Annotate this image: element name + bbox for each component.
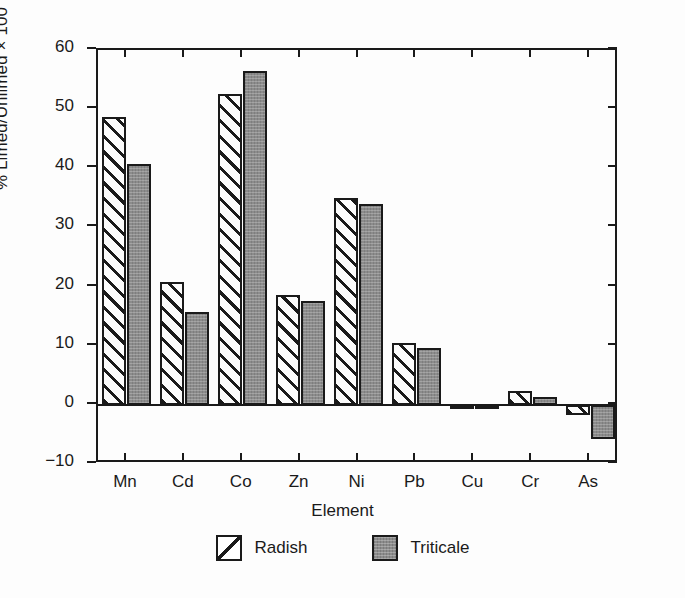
- bar-triticale-pb: [417, 348, 441, 405]
- bar-radish-co: [218, 94, 242, 405]
- x-tick-label: Mn: [113, 472, 137, 492]
- plot-area: [98, 50, 615, 460]
- bar-triticale-cu: [475, 405, 499, 409]
- x-tick-mark: [356, 453, 358, 462]
- bar-radish-mn: [102, 117, 126, 405]
- y-tick-label: 40: [55, 155, 74, 175]
- x-tick-mark: [471, 453, 473, 462]
- x-tick-mark: [529, 453, 531, 462]
- y-tick-mark-right: [608, 224, 617, 226]
- x-tick-mark-top: [471, 48, 473, 57]
- bar-radish-cr: [508, 391, 532, 405]
- y-tick-label: 50: [55, 96, 74, 116]
- x-tick-label: Cd: [172, 472, 194, 492]
- x-tick-mark-top: [587, 48, 589, 57]
- x-tick-label: Ni: [348, 472, 364, 492]
- bar-radish-zn: [276, 295, 300, 404]
- bar-triticale-cd: [185, 312, 209, 405]
- bar-triticale-co: [243, 71, 267, 405]
- x-tick-mark-top: [182, 48, 184, 57]
- x-tick-mark: [413, 453, 415, 462]
- y-tick-mark-right: [608, 106, 617, 108]
- y-tick-mark-right: [608, 461, 617, 463]
- plot-frame: [96, 48, 617, 462]
- bar-triticale-ni: [359, 204, 383, 405]
- legend-entry-triticale: Triticale: [372, 535, 470, 561]
- y-tick-label: 10: [55, 333, 74, 353]
- y-tick-mark-right: [608, 165, 617, 167]
- y-tick-mark-right: [608, 343, 617, 345]
- y-tick-mark: [87, 284, 96, 286]
- y-tick-label: 60: [55, 37, 74, 57]
- y-tick-label: 20: [55, 274, 74, 294]
- x-tick-mark-top: [240, 48, 242, 57]
- y-tick-mark: [87, 47, 96, 49]
- y-tick-mark: [87, 224, 96, 226]
- x-tick-label: Co: [230, 472, 252, 492]
- y-axis-label: % Limed/Unlimed × 100: [0, 7, 12, 190]
- x-axis-label: Element: [0, 501, 685, 521]
- legend-label-radish: Radish: [255, 538, 308, 558]
- bar-triticale-mn: [127, 164, 151, 405]
- legend-swatch-triticale-icon: [372, 535, 398, 561]
- y-tick-mark: [87, 106, 96, 108]
- bar-radish-pb: [392, 343, 416, 405]
- y-tick-mark: [87, 165, 96, 167]
- y-tick-mark-right: [608, 284, 617, 286]
- bar-triticale-as: [591, 405, 615, 439]
- y-tick-label: 0: [65, 392, 74, 412]
- y-tick-label: −10: [45, 451, 74, 471]
- x-tick-mark-top: [124, 48, 126, 57]
- x-tick-label: Pb: [404, 472, 425, 492]
- y-tick-mark: [87, 343, 96, 345]
- x-tick-label: Cu: [461, 472, 483, 492]
- x-tick-label: Cr: [521, 472, 539, 492]
- x-tick-mark: [182, 453, 184, 462]
- x-tick-mark-top: [356, 48, 358, 57]
- legend-swatch-radish-icon: [216, 535, 242, 561]
- y-tick-mark: [87, 461, 96, 463]
- y-tick-mark-right: [608, 402, 617, 404]
- legend-entry-radish: Radish: [216, 535, 308, 561]
- x-tick-mark: [240, 453, 242, 462]
- x-tick-label: Zn: [289, 472, 309, 492]
- bar-radish-cu: [450, 405, 474, 409]
- x-tick-mark-top: [298, 48, 300, 57]
- x-tick-label: As: [578, 472, 598, 492]
- x-tick-mark-top: [529, 48, 531, 57]
- bar-radish-as: [566, 405, 590, 415]
- bar-triticale-zn: [301, 301, 325, 405]
- x-tick-mark: [298, 453, 300, 462]
- bar-radish-ni: [334, 198, 358, 405]
- bar-radish-cd: [160, 282, 184, 404]
- legend-label-triticale: Triticale: [411, 538, 470, 558]
- y-tick-label: 30: [55, 214, 74, 234]
- chart-legend: Radish Triticale: [0, 535, 685, 561]
- bar-triticale-cr: [533, 397, 557, 405]
- y-tick-mark-right: [608, 47, 617, 49]
- x-tick-mark-top: [413, 48, 415, 57]
- x-tick-mark: [124, 453, 126, 462]
- x-tick-mark: [587, 453, 589, 462]
- chart-figure: % Limed/Unlimed × 100 6050403020100−10 M…: [0, 0, 685, 598]
- y-tick-mark: [87, 402, 96, 404]
